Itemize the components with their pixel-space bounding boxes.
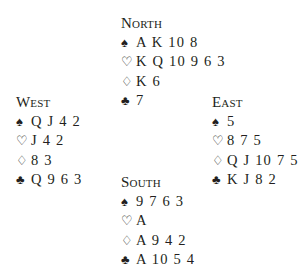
north-label: North bbox=[121, 14, 226, 33]
south-diamonds: ♢A 9 4 2 bbox=[121, 231, 195, 251]
west-clubs: ♣Q 9 6 3 bbox=[16, 170, 83, 190]
west-spades: ♠Q J 4 2 bbox=[16, 112, 83, 132]
east-diamonds: ♢Q J 10 7 5 bbox=[212, 151, 299, 171]
club-icon: ♣ bbox=[121, 251, 136, 268]
east-hand: East ♠5 ♡8 7 5 ♢Q J 10 7 5 ♣K J 8 2 bbox=[212, 93, 299, 190]
club-icon: ♣ bbox=[212, 171, 227, 190]
diamond-icon: ♢ bbox=[16, 152, 31, 171]
west-diamonds: ♢8 3 bbox=[16, 151, 83, 171]
club-icon: ♣ bbox=[16, 171, 31, 190]
heart-icon: ♡ bbox=[212, 132, 227, 151]
south-hand: South ♠9 7 6 3 ♡A ♢A 9 4 2 ♣A 10 5 4 bbox=[121, 173, 195, 268]
west-label: West bbox=[16, 93, 83, 112]
spade-icon: ♠ bbox=[121, 193, 136, 212]
south-label: South bbox=[121, 173, 195, 192]
north-spades: ♠A K 10 8 bbox=[121, 33, 226, 53]
heart-icon: ♡ bbox=[121, 212, 136, 231]
east-label: East bbox=[212, 93, 299, 112]
spade-icon: ♠ bbox=[121, 34, 136, 53]
spade-icon: ♠ bbox=[16, 113, 31, 132]
north-hearts: ♡K Q 10 9 6 3 bbox=[121, 52, 226, 72]
west-hearts: ♡J 4 2 bbox=[16, 131, 83, 151]
diamond-icon: ♢ bbox=[121, 232, 136, 251]
north-clubs: ♣7 bbox=[121, 91, 226, 111]
east-hearts: ♡8 7 5 bbox=[212, 131, 299, 151]
south-clubs: ♣A 10 5 4 bbox=[121, 250, 195, 268]
east-spades: ♠5 bbox=[212, 112, 299, 132]
east-clubs: ♣K J 8 2 bbox=[212, 170, 299, 190]
diamond-icon: ♢ bbox=[212, 152, 227, 171]
north-diamonds: ♢K 6 bbox=[121, 72, 226, 92]
club-icon: ♣ bbox=[121, 92, 136, 111]
heart-icon: ♡ bbox=[16, 132, 31, 151]
heart-icon: ♡ bbox=[121, 53, 136, 72]
south-hearts: ♡A bbox=[121, 211, 195, 231]
diamond-icon: ♢ bbox=[121, 73, 136, 92]
north-hand: North ♠A K 10 8 ♡K Q 10 9 6 3 ♢K 6 ♣7 bbox=[121, 14, 226, 111]
west-hand: West ♠Q J 4 2 ♡J 4 2 ♢8 3 ♣Q 9 6 3 bbox=[16, 93, 83, 190]
spade-icon: ♠ bbox=[212, 113, 227, 132]
south-spades: ♠9 7 6 3 bbox=[121, 192, 195, 212]
